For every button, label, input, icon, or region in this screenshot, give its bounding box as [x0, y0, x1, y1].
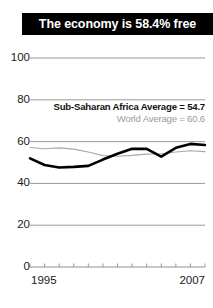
x-axis — [30, 264, 205, 268]
y-tick-20: 20 — [2, 219, 30, 231]
legend-item-world-average: World Average = 60.6 — [40, 113, 205, 125]
gridlines — [30, 58, 205, 225]
data-series-group — [30, 144, 205, 168]
plot-area — [0, 0, 213, 308]
x-axis-ticks — [30, 264, 205, 268]
y-tick-60: 60 — [2, 136, 30, 148]
x-tick-2007: 2007 — [179, 275, 205, 287]
x-tick-1995: 1995 — [31, 275, 57, 287]
legend-item-africa-average: Sub-Saharan Africa Average = 54.7 — [40, 101, 205, 113]
y-tick-40: 40 — [2, 178, 30, 190]
chart-legend: Sub-Saharan Africa Average = 54.7 World … — [40, 101, 205, 125]
y-tick-0: 0 — [2, 261, 30, 273]
y-tick-80: 80 — [2, 94, 30, 106]
y-tick-100: 100 — [2, 52, 30, 64]
economic-freedom-chart: The economy is 58.4% free — [0, 0, 213, 308]
